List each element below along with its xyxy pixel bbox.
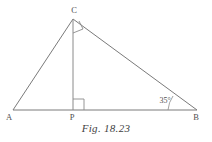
vertex-label-c: C	[71, 5, 77, 15]
vertex-label-b: B	[193, 112, 199, 122]
figure-caption: Fig. 18.23	[0, 122, 212, 134]
figure-container: A B C P 35° Fig. 18.23	[0, 0, 212, 142]
segment-ac	[13, 19, 73, 110]
right-angle-marker-p	[73, 99, 84, 110]
segment-cb	[73, 19, 197, 110]
vertex-label-p: P	[70, 112, 75, 122]
triangle-diagram: A B C P 35°	[0, 0, 212, 142]
vertex-label-a: A	[6, 112, 13, 122]
angle-label-b: 35°	[159, 96, 170, 105]
